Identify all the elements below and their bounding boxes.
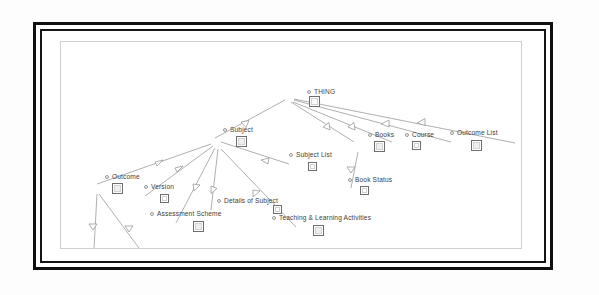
class-bullet-icon	[144, 185, 148, 189]
node-label: Subject	[230, 126, 253, 134]
node-box-version[interactable]	[160, 194, 169, 203]
class-bullet-icon	[289, 153, 293, 157]
class-bullet-icon	[217, 199, 221, 203]
node-label: THING	[314, 88, 335, 96]
node-box-course[interactable]	[412, 141, 421, 150]
node-label: Outcome	[112, 173, 140, 181]
node-label: Outcome List	[457, 129, 498, 137]
class-bullet-icon	[450, 131, 454, 135]
node-box-outcome-list[interactable]	[471, 140, 482, 151]
scanned-page: THING Subject Books Course Outcome List	[0, 0, 599, 295]
node-box-books[interactable]	[374, 141, 385, 152]
node-box-subject-list[interactable]	[308, 162, 317, 171]
node-box-book-status[interactable]	[360, 186, 369, 195]
class-bullet-icon	[405, 133, 409, 137]
class-bullet-icon	[105, 175, 109, 179]
node-box-outcome[interactable]	[112, 183, 123, 194]
diagram-canvas[interactable]: THING Subject Books Course Outcome List	[60, 41, 522, 249]
node-label: Teaching & Learning Activities	[279, 214, 371, 222]
node-box-teaching-learning-activities[interactable]	[313, 225, 324, 236]
class-bullet-icon	[348, 178, 352, 182]
node-label: Course	[412, 131, 434, 139]
node-label: Details of Subject	[224, 197, 278, 205]
node-label: Version	[151, 183, 174, 191]
class-bullet-icon	[368, 133, 372, 137]
class-bullet-icon	[223, 128, 227, 132]
figure-frame: THING Subject Books Course Outcome List	[33, 22, 553, 270]
node-label: Book Status	[355, 176, 392, 184]
node-box-details-of-subject[interactable]	[273, 205, 282, 214]
node-label: Subject List	[296, 151, 332, 159]
class-bullet-icon	[272, 216, 276, 220]
node-label: Assessment Scheme	[157, 210, 221, 218]
node-label: Books	[375, 131, 394, 139]
class-bullet-icon	[307, 90, 311, 94]
node-box-subject[interactable]	[236, 136, 247, 147]
class-bullet-icon	[150, 212, 154, 216]
node-box-thing[interactable]	[309, 96, 320, 107]
node-box-assessment-scheme[interactable]	[193, 221, 204, 232]
